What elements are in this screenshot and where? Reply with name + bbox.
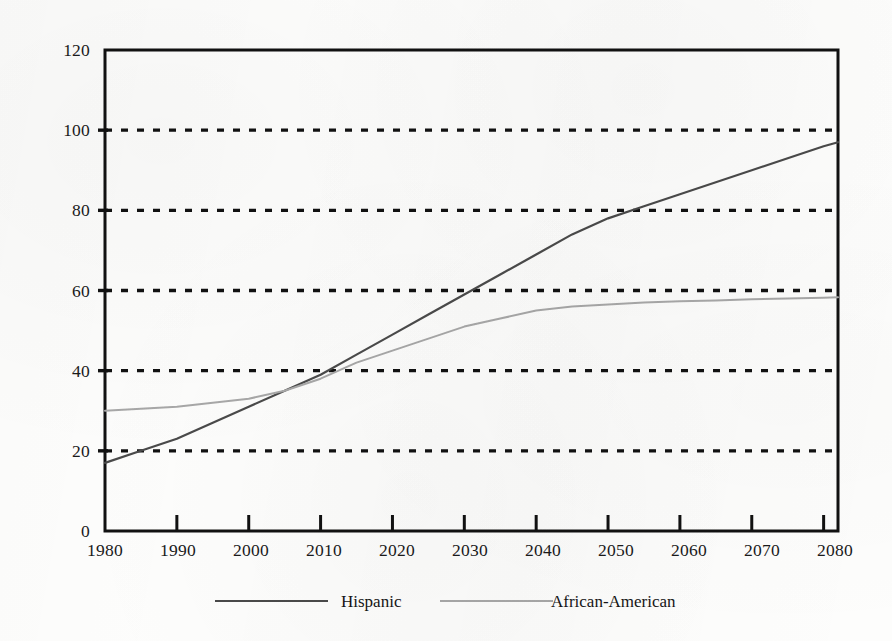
y-tick-label-80: 80 — [46, 200, 90, 221]
x-tick-label-1980: 1980 — [70, 540, 140, 561]
data-series-group — [105, 142, 838, 463]
x-tick-label-2020: 2020 — [362, 540, 432, 561]
x-tick-label-2000: 2000 — [216, 540, 286, 561]
x-tick-label-1990: 1990 — [143, 540, 213, 561]
chart-page: 120 100 80 60 40 20 0 1980 1990 2000 201… — [0, 0, 892, 641]
y-tick-label-100: 100 — [46, 120, 90, 141]
series-line-hispanic — [105, 142, 838, 463]
x-tick-label-2010: 2010 — [289, 540, 359, 561]
y-tick-label-120: 120 — [46, 40, 90, 61]
series-line-african-american — [105, 297, 838, 410]
legend-label-hispanic: Hispanic — [341, 592, 401, 612]
x-tick-label-2060: 2060 — [654, 540, 724, 561]
y-tick-label-40: 40 — [46, 361, 90, 382]
y-tick-label-60: 60 — [46, 281, 90, 302]
x-tick-label-2030: 2030 — [435, 540, 505, 561]
y-tick-label-20: 20 — [46, 441, 90, 462]
x-tick-label-2080: 2080 — [800, 540, 870, 561]
x-tick-label-2040: 2040 — [508, 540, 578, 561]
x-tick-label-2070: 2070 — [727, 540, 797, 561]
x-tick-label-2050: 2050 — [581, 540, 651, 561]
y-tick-label-0: 0 — [46, 521, 90, 542]
legend-label-african-american: African-American — [551, 592, 676, 612]
x-axis-ticks-group — [177, 515, 824, 531]
